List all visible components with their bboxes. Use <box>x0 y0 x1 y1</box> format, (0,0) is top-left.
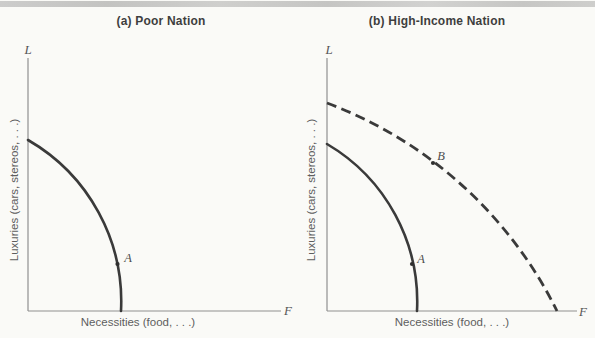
panel-a-y-axis-label: Luxuries (cars, stereos, . . .) <box>8 119 20 262</box>
panel-b-title: (b) High-Income Nation <box>369 14 505 28</box>
panel-b-point-dot <box>431 161 435 165</box>
panel-b-point-b-label: B <box>437 149 445 164</box>
panel-a-x-axis-label: Necessities (food, . . .) <box>81 316 195 328</box>
ppf-high-income-expanded-curve <box>327 103 557 311</box>
panel-b-x-axis-label: Necessities (food, . . .) <box>395 316 509 328</box>
ppf-high-income-initial-curve <box>327 144 417 311</box>
panel-a-title: (a) Poor Nation <box>117 14 206 28</box>
panel-b-point-dot <box>410 262 414 266</box>
panel-b-x-axis-letter: F <box>579 304 587 320</box>
panel-b-y-axis-letter: L <box>325 42 332 58</box>
figure: (a) Poor Nation L F Luxuries (cars, ster… <box>0 0 595 338</box>
panel-a-y-axis-letter: L <box>24 42 31 58</box>
panel-a-point-a-label: A <box>124 251 132 266</box>
panel-b-y-axis-label: Luxuries (cars, stereos, . . .) <box>305 119 317 262</box>
plot-canvas <box>0 0 595 338</box>
panel-b-point-a-label: A <box>417 252 425 267</box>
panel-a-point-dot <box>115 262 119 266</box>
panel-a-x-axis-letter: F <box>284 303 292 319</box>
ppf-poor-nation-curve <box>28 140 121 311</box>
